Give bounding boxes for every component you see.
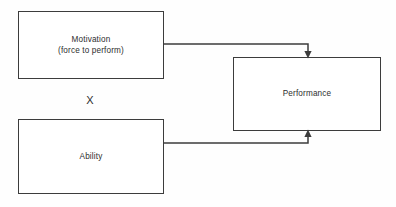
node-ability-label: Ability bbox=[80, 151, 103, 163]
operator-multiply-label: X bbox=[72, 91, 108, 109]
connector-motivation-to-performance bbox=[164, 44, 308, 53]
node-performance-label: Performance bbox=[283, 88, 332, 100]
node-performance[interactable]: Performance bbox=[233, 57, 381, 131]
connector-ability-to-performance bbox=[164, 136, 308, 144]
node-motivation-label: Motivation (force to perform) bbox=[58, 34, 124, 57]
node-ability[interactable]: Ability bbox=[18, 119, 164, 194]
diagram-canvas: Motivation (force to perform) X Ability … bbox=[0, 0, 396, 207]
node-motivation[interactable]: Motivation (force to perform) bbox=[18, 11, 164, 79]
